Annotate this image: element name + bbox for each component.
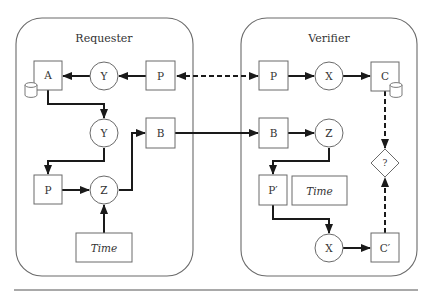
svg-text:P: P xyxy=(157,70,164,82)
node-requester-z: Z xyxy=(90,176,118,204)
svg-text:Y: Y xyxy=(100,70,109,82)
svg-text:Z: Z xyxy=(100,184,107,196)
edge-pprime-x xyxy=(273,205,329,233)
node-requester-y2: Y xyxy=(90,119,118,147)
node-verifier-pprime: P′ xyxy=(259,175,287,205)
requester-title: Requester xyxy=(75,32,133,45)
node-requester-p1: P xyxy=(146,61,175,90)
node-verifier-p: P xyxy=(259,61,288,90)
svg-text:X: X xyxy=(325,70,333,82)
svg-text:C: C xyxy=(381,70,389,82)
svg-text:P: P xyxy=(44,184,51,196)
svg-text:B: B xyxy=(157,127,165,139)
edges xyxy=(48,76,385,248)
protocol-diagram: Requester Verifier xyxy=(0,0,431,292)
edge-a-y2 xyxy=(48,90,104,118)
svg-text:Time: Time xyxy=(91,242,118,254)
database-icon xyxy=(25,83,37,98)
node-verifier-x1: X xyxy=(315,62,343,90)
svg-text:C′: C′ xyxy=(380,242,391,254)
node-verifier-b: B xyxy=(259,118,288,148)
svg-text:P: P xyxy=(270,70,277,82)
svg-text:Time: Time xyxy=(306,185,333,197)
node-requester-b: B xyxy=(146,118,175,148)
node-verifier-decision: ? xyxy=(371,149,399,177)
svg-text:P′: P′ xyxy=(268,184,278,196)
node-verifier-time: Time xyxy=(292,176,347,205)
edge-z-pprime xyxy=(273,148,329,174)
svg-text:Z: Z xyxy=(325,127,332,139)
node-verifier-cprime: C′ xyxy=(371,233,399,262)
database-icon xyxy=(390,83,402,98)
node-requester-y1: Y xyxy=(90,62,118,90)
edge-z-b xyxy=(119,133,145,190)
svg-text:X: X xyxy=(325,242,333,254)
node-requester-time: Time xyxy=(76,233,132,262)
node-verifier-z: Z xyxy=(315,119,343,147)
node-requester-p2: P xyxy=(34,175,62,204)
verifier-title: Verifier xyxy=(307,32,350,45)
node-requester-a: A xyxy=(34,61,62,90)
edge-y2-p xyxy=(48,148,104,174)
svg-text:Y: Y xyxy=(100,127,109,139)
svg-text:B: B xyxy=(270,127,278,139)
node-verifier-x2: X xyxy=(315,234,343,262)
svg-text:A: A xyxy=(43,69,52,81)
svg-text:?: ? xyxy=(383,158,388,168)
